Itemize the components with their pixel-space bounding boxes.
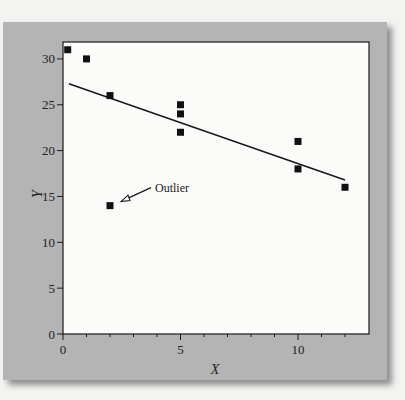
data-point [64,46,71,53]
x-axis: 0510 [60,334,345,357]
y-tick-label: 5 [49,281,56,296]
x-tick-label: 10 [292,342,305,357]
x-tick-label: 0 [60,342,67,357]
x-tick-label: 5 [177,342,184,357]
data-point [107,202,114,209]
data-point [342,184,349,191]
y-tick-label: 30 [42,51,55,66]
data-point [177,101,184,108]
data-point [107,92,114,99]
data-point [83,55,90,62]
data-point [177,129,184,136]
y-axis: 051015202530 [42,51,63,341]
annotation-label: Outlier [155,181,189,195]
data-point [295,165,302,172]
scatter-chart: 051015202530 0510 Y X Outlier [0,0,405,400]
y-tick-label: 10 [42,235,55,250]
data-point [177,110,184,117]
plot-area [63,42,369,334]
y-tick-label: 25 [42,97,55,112]
data-point [295,138,302,145]
y-tick-label: 20 [42,143,55,158]
y-tick-label: 0 [49,327,56,342]
x-axis-title: X [210,362,220,377]
